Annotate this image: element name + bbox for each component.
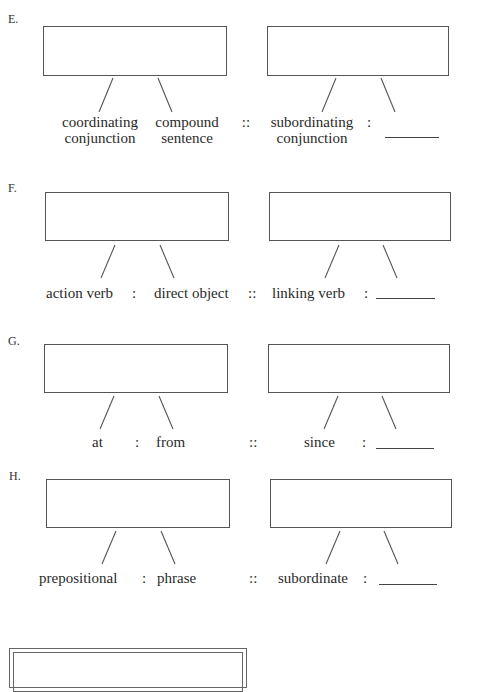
analogy-separator: :: — [236, 114, 256, 130]
separator: : — [142, 570, 146, 586]
analogy-separator: :: — [248, 285, 256, 301]
term-line: conjunction — [254, 130, 370, 146]
separator: : — [364, 285, 368, 301]
answer-box-left[interactable] — [44, 344, 228, 393]
answer-blank[interactable] — [379, 584, 437, 585]
term-right-1: linking verb — [272, 285, 345, 301]
section-label: F. — [8, 181, 17, 196]
footer-frame-inner — [13, 652, 243, 692]
answer-box-right[interactable] — [267, 26, 449, 76]
term-right-1: since — [304, 434, 335, 450]
separator: : — [364, 114, 374, 130]
answer-box-left[interactable] — [46, 479, 230, 528]
term-line: subordinating — [254, 114, 370, 130]
answer-box-right[interactable] — [269, 192, 451, 241]
term-left-2: compound sentence — [142, 114, 232, 146]
separator: : — [131, 114, 141, 130]
term-left-2: phrase — [157, 570, 196, 586]
term-left-2: from — [156, 434, 185, 450]
separator: : — [363, 570, 367, 586]
separator: : — [362, 434, 366, 450]
answer-box-right[interactable] — [270, 479, 452, 528]
term-left-1: action verb — [46, 285, 113, 301]
answer-box-right[interactable] — [268, 344, 450, 393]
section-label: E. — [8, 12, 18, 27]
answer-blank[interactable] — [385, 137, 439, 138]
term-line: compound — [142, 114, 232, 130]
term-left-1: at — [92, 434, 103, 450]
answer-blank[interactable] — [376, 298, 435, 299]
term-left-1: prepositional — [39, 570, 117, 586]
answer-box-left[interactable] — [45, 192, 229, 241]
term-right-1: subordinate — [278, 570, 348, 586]
section-label: G. — [8, 334, 20, 349]
term-line: sentence — [142, 130, 232, 146]
separator: : — [132, 285, 136, 301]
term-right-1: subordinating conjunction — [254, 114, 370, 146]
answer-box-left[interactable] — [43, 26, 227, 76]
section-label: H. — [9, 469, 21, 484]
analogy-separator: :: — [249, 570, 257, 586]
separator: : — [135, 434, 139, 450]
answer-blank[interactable] — [376, 448, 434, 449]
term-left-2: direct object — [154, 285, 229, 301]
analogy-separator: :: — [249, 434, 257, 450]
